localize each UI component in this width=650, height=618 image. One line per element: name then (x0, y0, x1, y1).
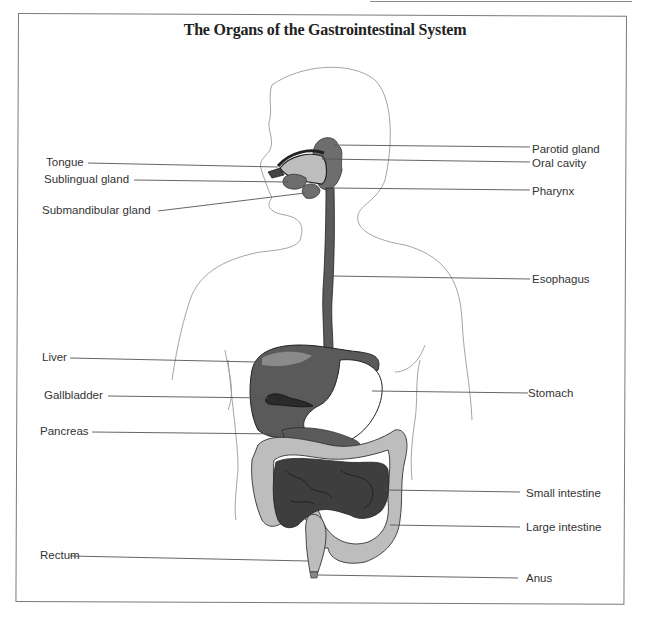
label-parotid-gland: Parotid gland (532, 143, 600, 156)
label-liver: Liver (42, 351, 67, 364)
leader-anus (318, 575, 518, 578)
leader-esophagus (332, 276, 530, 279)
label-stomach: Stomach (528, 387, 573, 400)
leader-pancreas (92, 432, 282, 434)
label-esophagus: Esophagus (532, 273, 590, 286)
leader-stomach (372, 391, 528, 393)
leader-tongue (88, 163, 278, 167)
leader-small-intestine (386, 490, 520, 492)
leader-rectum (70, 556, 308, 561)
label-sublingual-gland: Sublingual gland (44, 173, 129, 186)
leader-pharynx (332, 188, 530, 190)
rectum-shape (306, 514, 326, 572)
label-small-intestine: Small intestine (526, 487, 601, 500)
small-intestine-shape (273, 458, 389, 527)
label-submandibular-gland: Submandibular gland (42, 204, 151, 217)
label-gallbladder: Gallbladder (44, 389, 103, 402)
leader-submandibular (158, 193, 305, 211)
label-large-intestine: Large intestine (526, 521, 601, 534)
label-oral-cavity: Oral cavity (532, 157, 586, 170)
label-pharynx: Pharynx (532, 185, 574, 198)
leader-parotid (334, 145, 530, 147)
esophagus-shape (323, 188, 335, 350)
label-tongue: Tongue (46, 156, 84, 169)
leader-oral-cavity (322, 159, 530, 162)
label-rectum: Rectum (40, 549, 80, 562)
anus-shape (310, 572, 318, 578)
label-anus: Anus (526, 572, 552, 585)
leader-large-intestine (390, 525, 520, 527)
leader-gallbladder (108, 396, 268, 398)
submandibular-gland-shape (302, 184, 320, 199)
label-pancreas: Pancreas (40, 425, 89, 438)
